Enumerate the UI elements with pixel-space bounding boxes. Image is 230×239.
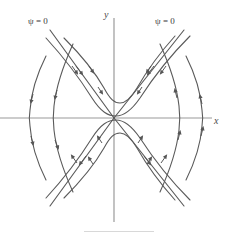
- flow-arrow-bottom-outer-left: [72, 156, 77, 163]
- flow-arrow-top-inner-left: [89, 66, 93, 72]
- streamline-top-outer: [46, 36, 190, 116]
- arrow-group-bottom: [72, 137, 166, 164]
- separatrix-upper-right: [114, 30, 184, 118]
- streamline-top-inner: [64, 36, 175, 103]
- streamline-bottom-inner: [64, 133, 175, 200]
- streamline-bottom-outer: [46, 120, 190, 200]
- streamlines-bottom: [46, 120, 190, 200]
- flow-arrow-sep-lower-left: [80, 156, 86, 164]
- stagnation-flow-figure: y x ψ = 0 ψ = 0: [0, 0, 230, 239]
- psi-zero-label-right: ψ = 0: [155, 16, 175, 26]
- arrow-group-separatrix: [76, 66, 154, 164]
- psi-zero-label-left: ψ = 0: [28, 16, 48, 26]
- bottom-rule-divider: [84, 231, 154, 232]
- flow-arrow-top-mid-left: [98, 87, 102, 93]
- x-axis-label: x: [214, 115, 218, 126]
- streamline-plot: [0, 0, 230, 239]
- y-axis-label: y: [104, 9, 108, 20]
- streamlines-top: [46, 36, 190, 116]
- flow-arrow-bottom-inner-left: [89, 158, 93, 164]
- flow-arrow-bottom-outer-right: [161, 156, 166, 163]
